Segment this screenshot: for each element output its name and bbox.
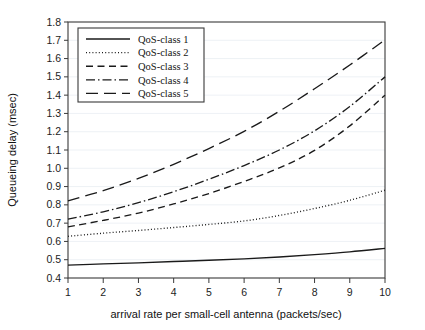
legend-label-qos-class-4: QoS-class 4 xyxy=(138,75,189,86)
y-tick-label: 1.0 xyxy=(46,162,61,174)
x-tick-label: 2 xyxy=(100,286,106,298)
y-tick-label: 0.9 xyxy=(46,180,61,192)
y-tick-label: 0.7 xyxy=(46,217,61,229)
y-tick-label: 0.4 xyxy=(46,272,61,284)
y-tick-label: 1.5 xyxy=(46,70,61,82)
chart-legend: QoS-class 1QoS-class 2QoS-class 3QoS-cla… xyxy=(78,28,204,102)
y-tick-label: 1.6 xyxy=(46,52,61,64)
x-tick-label: 9 xyxy=(347,286,353,298)
x-tick-label: 10 xyxy=(379,286,391,298)
x-axis-title: arrival rate per small-cell antenna (pac… xyxy=(110,308,341,320)
legend-label-qos-class-3: QoS-class 3 xyxy=(138,61,188,72)
y-tick-label: 1.1 xyxy=(46,144,61,156)
x-tick-label: 1 xyxy=(65,286,71,298)
y-tick-label: 1.4 xyxy=(46,89,61,101)
x-tick-label: 6 xyxy=(241,286,247,298)
legend-label-qos-class-2: QoS-class 2 xyxy=(138,47,188,58)
x-tick-label: 4 xyxy=(171,286,177,298)
y-tick-label: 0.8 xyxy=(46,198,61,210)
y-tick-label: 1.7 xyxy=(46,34,61,46)
chart-background xyxy=(0,0,425,330)
legend-label-qos-class-5: QoS-class 5 xyxy=(138,88,188,99)
chart-container: 0.40.50.60.70.80.91.01.11.21.31.41.51.61… xyxy=(0,0,425,330)
x-tick-label: 8 xyxy=(312,286,318,298)
legend-label-qos-class-1: QoS-class 1 xyxy=(138,34,188,45)
x-tick-label: 5 xyxy=(206,286,212,298)
y-tick-label: 0.5 xyxy=(46,253,61,265)
x-tick-label: 7 xyxy=(276,286,282,298)
x-tick-label: 3 xyxy=(136,286,142,298)
y-axis-title: Queueing delay (msec) xyxy=(6,93,18,207)
y-tick-label: 0.6 xyxy=(46,235,61,247)
queueing-delay-line-chart: 0.40.50.60.70.80.91.01.11.21.31.41.51.61… xyxy=(0,0,425,330)
y-tick-label: 1.2 xyxy=(46,125,61,137)
y-tick-label: 1.8 xyxy=(46,16,61,28)
y-tick-label: 1.3 xyxy=(46,107,61,119)
